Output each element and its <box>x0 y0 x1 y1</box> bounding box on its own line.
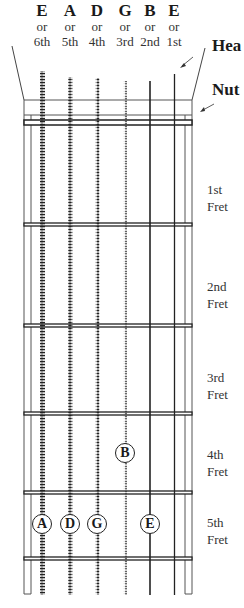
fret-label-3: 3rd Fret <box>207 369 228 403</box>
headstock-label: Hea <box>212 36 241 56</box>
nut-arrow <box>203 104 214 110</box>
string-label-3rd: G or 3rd <box>111 2 139 50</box>
fretboard-diagram: E or 6th A or 5th D or 4th G or 3rd B or… <box>0 0 244 608</box>
string-label-5th: A or 5th <box>56 2 84 50</box>
string-label-1st: E or 1st <box>160 2 188 50</box>
string-3rd <box>124 81 128 595</box>
nut <box>24 120 192 125</box>
note-marker-a: A <box>32 514 52 534</box>
string-label-4th: D or 4th <box>83 2 111 50</box>
fret-label-4: 4th Fret <box>207 446 228 480</box>
nut-label: Nut <box>212 80 239 100</box>
headstock-right-edge <box>192 48 205 100</box>
note-marker-g: G <box>87 514 107 534</box>
headstock-left-edge <box>12 46 24 100</box>
note-marker-d: D <box>60 514 80 534</box>
fret-label-5: 5th Fret <box>207 514 228 548</box>
note-marker-e: E <box>140 514 160 534</box>
note-marker-b: B <box>115 443 135 463</box>
fret-label-2: 2nd Fret <box>207 278 228 312</box>
fret-wires <box>24 223 192 560</box>
string-label-6th: E or 6th <box>28 2 56 50</box>
fret-label-1: 1st Fret <box>207 181 228 215</box>
